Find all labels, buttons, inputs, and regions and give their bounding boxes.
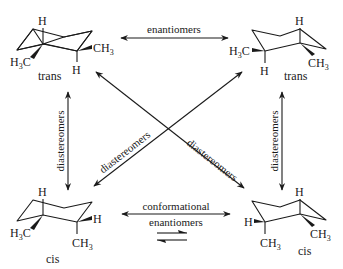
isomer-label-cis: cis	[298, 244, 312, 258]
label-diastereomers-left: diastereomers	[54, 110, 66, 171]
label-enantiomers-bottom: enantiomers	[149, 216, 203, 228]
atom-ch3-left: H3C	[10, 55, 31, 71]
atom-ch3-right: CH3	[93, 41, 114, 57]
atom-h-top: H	[295, 14, 304, 28]
molecule-bottom-left-cis: H H3C H CH3 cis	[10, 185, 102, 266]
label-diastereomers-right: diastereomers	[268, 110, 280, 171]
atom-h-top: H	[38, 14, 47, 28]
stereoisomer-diagram: H H3C CH3 H trans H H3C H CH3 trans H H3…	[0, 0, 343, 269]
chair-ring	[252, 29, 326, 51]
label-enantiomers-top: enantiomers	[147, 23, 201, 35]
atom-h-top: H	[38, 185, 47, 199]
atom-h-top: H	[295, 185, 304, 199]
molecule-bottom-right-cis: H H CH3 CH3 cis	[244, 185, 331, 258]
isomer-label-trans: trans	[38, 69, 62, 83]
molecule-top-left-trans: H H3C CH3 H trans	[10, 14, 114, 83]
equilibrium-arrows-icon	[157, 230, 187, 243]
chair-ring	[252, 200, 326, 222]
atom-h-bottom: H	[72, 63, 81, 77]
label-conformational: conformational	[142, 200, 209, 212]
chair-ring	[17, 200, 92, 222]
isomer-label-trans: trans	[284, 69, 308, 83]
atom-ch3-right: CH3	[310, 227, 331, 243]
atom-ch3-bottom: CH3	[260, 236, 281, 252]
atom-ch3-left: H3C	[10, 226, 31, 242]
atom-ch3-bottom: CH3	[72, 236, 93, 252]
atom-h-bottom: H	[260, 64, 269, 78]
atom-h-left: H	[244, 215, 253, 229]
isomer-label-cis: cis	[46, 252, 60, 266]
atom-ch3-left: H3C	[229, 44, 250, 60]
label-diastereomers-diag-left: diastereomers	[97, 128, 153, 175]
molecule-top-right-trans: H H3C H CH3 trans	[229, 14, 329, 83]
atom-h-right: H	[93, 212, 102, 226]
atom-ch3-right: CH3	[308, 56, 329, 72]
label-diastereomers-diag-right: diastereomers	[185, 136, 241, 183]
